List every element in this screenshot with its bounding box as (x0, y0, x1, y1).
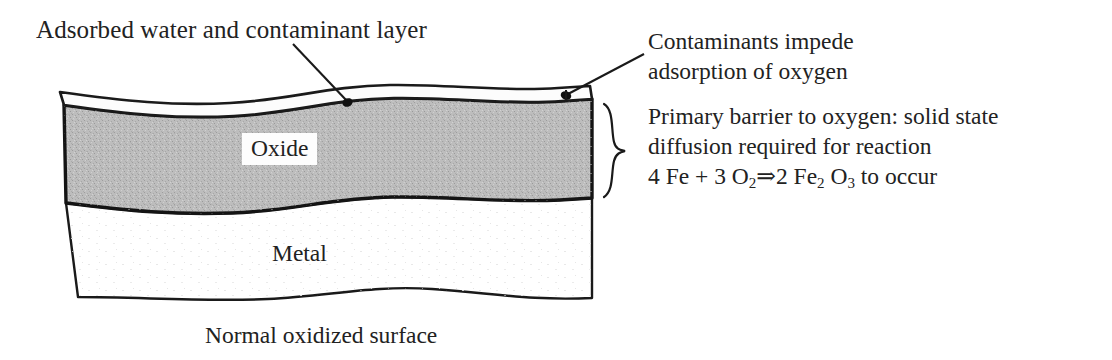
callout-barrier-line2: diffusion required for reaction (648, 131, 998, 161)
callout-contaminants-impede: Contaminants impedeadsorption of oxygen (648, 26, 854, 86)
brace-icon (604, 104, 625, 197)
callout-primary-barrier: Primary barrier to oxygen: solid statedi… (648, 101, 998, 191)
figure-caption: Normal oxidized surface (205, 320, 437, 350)
figure-root: Adsorbed water and contaminant layer Con… (0, 0, 1112, 360)
label-oxide: Oxide (242, 133, 317, 165)
label-metal: Metal (272, 238, 327, 268)
equation-arrow: ⇒2 Fe (756, 163, 817, 189)
brace-oxide-span (604, 104, 625, 197)
callout-barrier-line1: Primary barrier to oxygen: solid state (648, 101, 998, 131)
leader-line-right (568, 54, 644, 94)
equation-subscript-o3: 3 (847, 175, 855, 191)
equation-prefix: 4 Fe + 3 O (648, 163, 749, 189)
equation-subscript-fe2: 2 (817, 175, 825, 191)
callout-contaminants-line1: Contaminants impede (648, 26, 854, 56)
callout-contaminants-line2: adsorption of oxygen (648, 56, 854, 86)
chemical-equation: 4 Fe + 3 O2⇒2 Fe2 O3 to occur (648, 161, 998, 191)
equation-suffix: to occur (855, 163, 937, 189)
equation-mid: O (825, 163, 848, 189)
label-adsorbed-water-contaminant-layer: Adsorbed water and contaminant layer (36, 14, 427, 46)
